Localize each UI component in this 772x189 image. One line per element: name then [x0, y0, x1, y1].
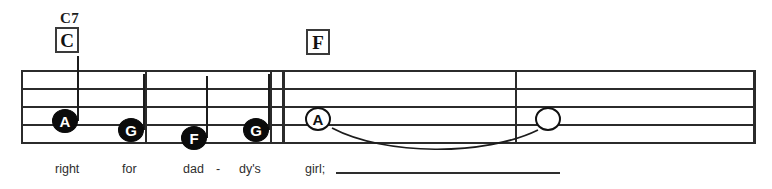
note-4-stem	[268, 74, 270, 130]
note-1-stem	[77, 56, 79, 121]
lyric-extender-line	[336, 172, 560, 174]
note-3-head[interactable]: F	[181, 126, 207, 150]
barline-end	[753, 70, 756, 144]
lyric-syllable-4: dy's	[239, 163, 261, 176]
note-2-stem	[143, 74, 145, 130]
staff-line-1	[21, 70, 756, 72]
note-1-head[interactable]: A	[52, 109, 78, 133]
note-4-head[interactable]: G	[243, 118, 269, 142]
lyric-syllable-2: for	[122, 163, 137, 176]
tie-slur	[330, 126, 540, 156]
staff-line-2	[21, 88, 756, 90]
chord-diagram-box-c[interactable]: C	[55, 27, 79, 53]
barline-double-thin	[270, 70, 272, 144]
staff-line-3	[21, 106, 756, 108]
chord-diagram-box-f[interactable]: F	[306, 29, 330, 55]
lyric-syllable-5: girl;	[305, 163, 325, 176]
lyric-hyphen: -	[216, 163, 220, 176]
lyric-syllable-3: dad	[183, 163, 204, 176]
tie-path	[332, 128, 538, 149]
note-2-head[interactable]: G	[118, 118, 144, 142]
barline-start	[21, 70, 23, 144]
note-5-head[interactable]: A	[305, 107, 331, 131]
sheet-music-system: C7 C F A G F G A right for dad - dy's gi…	[0, 0, 772, 189]
chord-symbol-c7: C7	[60, 10, 79, 27]
note-3-stem	[206, 76, 208, 138]
barline-double-thick	[282, 70, 285, 144]
barline-measure-1	[145, 70, 147, 144]
lyric-syllable-1: right	[55, 163, 79, 176]
